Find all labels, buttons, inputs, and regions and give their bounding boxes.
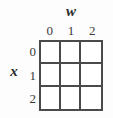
column-header-2: 2 — [82, 23, 103, 39]
cell-r1-c2[interactable] — [81, 64, 101, 86]
joint-distribution-grid-figure: w x 0 1 2 0 1 2 — [0, 0, 113, 118]
cell-r1-c1[interactable] — [61, 64, 81, 86]
cell-r2-c2[interactable] — [81, 87, 101, 109]
row-header-0: 0 — [23, 40, 36, 64]
cell-r1-c0[interactable] — [41, 64, 61, 86]
row-variable-label: x — [6, 63, 22, 80]
grid-table — [39, 40, 103, 111]
column-header-row: 0 1 2 — [39, 23, 103, 39]
row-header-1: 1 — [23, 64, 36, 88]
cell-r2-c1[interactable] — [61, 87, 81, 109]
column-variable-label: w — [39, 3, 103, 20]
column-header-1: 1 — [60, 23, 81, 39]
column-header-0: 0 — [39, 23, 60, 39]
row-header-2: 2 — [23, 87, 36, 111]
cell-r2-c0[interactable] — [41, 87, 61, 109]
cell-r0-c2[interactable] — [81, 42, 101, 64]
row-header-column: 0 1 2 — [23, 40, 36, 111]
cell-r0-c1[interactable] — [61, 42, 81, 64]
cell-r0-c0[interactable] — [41, 42, 61, 64]
